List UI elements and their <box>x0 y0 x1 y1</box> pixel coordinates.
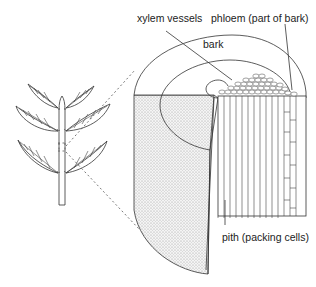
terminal-bud <box>59 96 65 110</box>
leaf-top-left <box>28 84 58 108</box>
leaf-bottom-right <box>66 141 107 173</box>
leaf-top-right <box>66 86 94 108</box>
label-xylem-vessels: xylem vessels <box>137 12 202 24</box>
leaf-middle-right <box>66 104 110 131</box>
vascular-block <box>218 96 306 216</box>
cylinder-outer-surface <box>134 95 214 274</box>
label-pith: pith (packing cells) <box>222 231 309 243</box>
label-phloem: phloem (part of bark) <box>211 12 308 24</box>
leaf-bottom-left <box>18 140 58 173</box>
plant-shoot <box>16 84 110 205</box>
projection-line-top <box>66 70 135 146</box>
plant-stem-diagram: xylem vessels phloem (part of bark) bark… <box>0 0 316 287</box>
stem <box>59 108 65 205</box>
label-bark: bark <box>203 38 224 50</box>
leaf-middle-left <box>16 106 58 131</box>
projection-line-bottom <box>66 152 140 230</box>
